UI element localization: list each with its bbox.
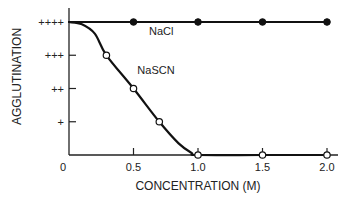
data-point-nascn	[324, 152, 330, 158]
data-point-nascn	[103, 52, 109, 58]
x-tick-label: 0	[60, 161, 66, 173]
y-axis-title: AGGLUTINATION	[10, 28, 24, 125]
series-label-nascn: NaSCN	[137, 64, 174, 76]
data-point-nacl	[324, 19, 331, 26]
y-tick-label: +++	[45, 49, 64, 61]
data-point-nacl	[195, 19, 202, 26]
data-point-nascn	[195, 152, 201, 158]
annotation-layer: NaClNaSCN	[137, 25, 174, 75]
x-tick-label: 1.5	[255, 161, 270, 173]
y-ticks: ++++++++++	[38, 16, 76, 128]
agglutination-chart: 00.51.01.52.0 ++++++++++ NaClNaSCN CONCE…	[0, 0, 359, 210]
x-axis-title: CONCENTRATION (M)	[135, 179, 260, 193]
y-tick-label: ++++	[38, 16, 64, 28]
y-tick-label: ++	[51, 83, 64, 95]
data-point-nacl	[259, 19, 266, 26]
data-point-nascn	[130, 85, 136, 91]
series-line-nascn	[69, 22, 327, 155]
data-point-nascn	[156, 119, 162, 125]
data-point-nacl	[130, 19, 137, 26]
y-tick-label: +	[58, 116, 64, 128]
series-nascn	[69, 22, 330, 158]
series-nacl	[69, 19, 330, 26]
x-tick-label: 0.5	[126, 161, 141, 173]
x-tick-label: 2.0	[319, 161, 334, 173]
data-point-nascn	[259, 152, 265, 158]
axes	[69, 8, 338, 155]
x-tick-label: 1.0	[190, 161, 205, 173]
series-layer	[69, 19, 330, 159]
series-label-nacl: NaCl	[149, 25, 173, 37]
